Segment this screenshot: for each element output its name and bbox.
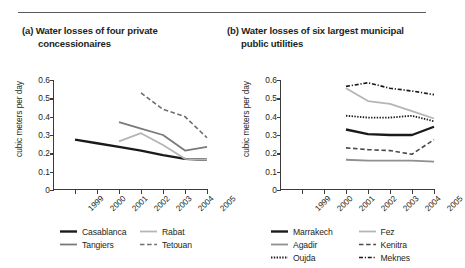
legend-swatch-icon — [359, 240, 376, 249]
x-tick-label: 2002 — [379, 194, 398, 213]
x-tick-label: 2001 — [357, 194, 376, 213]
legend-item-rabat[interactable]: Rabat — [140, 227, 220, 237]
legend-label: Agadir — [293, 240, 317, 250]
x-tick-label: 2004 — [423, 194, 442, 213]
legend-swatch-icon — [271, 253, 288, 262]
legend-swatch-icon — [271, 240, 288, 249]
legend-label: Tangiers — [82, 240, 114, 250]
panel-a-title-line1: (a) Water losses of four private — [22, 25, 158, 36]
legend-row: AgadirKenitra — [271, 238, 446, 251]
y-tick-mark — [277, 117, 281, 118]
panel-a-y-tick-labels: 0.60.50.40.30.20.10 — [18, 80, 50, 192]
legend-item-marrakech[interactable]: Marrakech — [271, 227, 359, 237]
x-tick-label: 2003 — [174, 194, 193, 213]
legend-swatch-icon — [60, 240, 77, 249]
y-tick-mark — [277, 98, 281, 99]
y-tick-label: 0.5 — [38, 93, 50, 103]
legend-item-kenitra[interactable]: Kenitra — [359, 240, 447, 250]
panel-b-title-line2: public utilities — [227, 37, 441, 50]
panel-b-plot: cubic meters per day 0.60.50.40.30.20.10… — [221, 58, 442, 208]
series-line-agadir — [346, 160, 434, 162]
legend-label: Fez — [381, 227, 395, 237]
legend-label: Tetouan — [162, 240, 192, 250]
x-tick-label: 2004 — [196, 194, 215, 213]
x-tick-label: 2000 — [108, 194, 127, 213]
legend-swatch-icon — [60, 227, 77, 236]
y-tick-label: 0.1 — [265, 167, 277, 177]
header-divider — [18, 12, 426, 13]
panel-a-plot: cubic meters per day 0.60.50.40.30.20.10… — [0, 58, 221, 208]
y-tick-label: 0.1 — [38, 167, 50, 177]
legend-row: MarrakechFez — [271, 225, 446, 238]
y-tick-mark — [50, 80, 54, 81]
panel-a-axes — [53, 80, 208, 190]
legend-row: CasablancaRabat — [60, 225, 220, 238]
panel-b-legend: MarrakechFezAgadirKenitraOujdaMeknes — [271, 225, 446, 264]
series-line-kenitra — [346, 140, 434, 155]
legend-swatch-icon — [359, 227, 376, 236]
y-tick-label: 0.3 — [38, 130, 50, 140]
panel-b-series-svg — [280, 80, 435, 190]
y-tick-mark — [277, 172, 281, 173]
y-tick-mark — [50, 172, 54, 173]
chart-panel-b: (b) Water losses of six largest municipa… — [221, 20, 442, 266]
legend-label: Kenitra — [381, 240, 408, 250]
x-tick-label: 2005 — [445, 194, 464, 213]
series-line-meknes — [346, 83, 434, 95]
legend-item-tangiers[interactable]: Tangiers — [60, 240, 140, 250]
panel-b-y-tick-labels: 0.60.50.40.30.20.10 — [245, 80, 277, 192]
legend-item-casablanca[interactable]: Casablanca — [60, 227, 140, 237]
legend-swatch-icon — [359, 253, 376, 262]
legend-label: Meknes — [381, 253, 411, 263]
y-tick-mark — [50, 98, 54, 99]
y-tick-label: 0.6 — [265, 75, 277, 85]
legend-item-tetouan[interactable]: Tetouan — [140, 240, 220, 250]
legend-item-fez[interactable]: Fez — [359, 227, 447, 237]
y-tick-mark — [50, 117, 54, 118]
y-tick-mark — [50, 153, 54, 154]
x-tick-label: 2002 — [152, 194, 171, 213]
y-tick-mark — [50, 135, 54, 136]
legend-label: Rabat — [162, 227, 184, 237]
legend-label: Marrakech — [293, 227, 333, 237]
y-tick-label: 0.5 — [265, 93, 277, 103]
x-tick-label: 1999 — [86, 194, 105, 213]
legend-row: TangiersTetouan — [60, 238, 220, 251]
legend-row: OujdaMeknes — [271, 251, 446, 264]
series-line-fez — [346, 88, 434, 118]
y-tick-label: 0.3 — [265, 130, 277, 140]
legend-item-agadir[interactable]: Agadir — [271, 240, 359, 250]
legend-label: Casablanca — [82, 227, 126, 237]
y-tick-label: 0.2 — [265, 148, 277, 158]
legend-swatch-icon — [140, 227, 157, 236]
panel-a-legend: CasablancaRabatTangiersTetouan — [60, 225, 220, 251]
y-tick-label: 0.6 — [38, 75, 50, 85]
x-tick-label: 2000 — [335, 194, 354, 213]
y-tick-mark — [277, 153, 281, 154]
legend-swatch-icon — [271, 227, 288, 236]
legend-label: Oujda — [293, 253, 315, 263]
chart-panel-a: (a) Water losses of four private concess… — [0, 20, 221, 266]
x-tick-label: 2003 — [401, 194, 420, 213]
y-tick-mark — [277, 80, 281, 81]
y-tick-label: 0.4 — [265, 112, 277, 122]
panel-b-title-line1: (b) Water losses of six largest municipa… — [227, 25, 404, 36]
legend-item-meknes[interactable]: Meknes — [359, 253, 447, 263]
panel-a-title-line2: concessionaires — [22, 37, 220, 50]
series-line-oujda — [346, 116, 434, 122]
legend-item-oujda[interactable]: Oujda — [271, 253, 359, 263]
y-tick-label: 0.4 — [38, 112, 50, 122]
panel-b-title: (b) Water losses of six largest municipa… — [227, 24, 441, 50]
y-tick-label: 0.2 — [38, 148, 50, 158]
y-tick-mark — [277, 190, 281, 191]
x-tick-label: 1999 — [313, 194, 332, 213]
y-tick-mark — [277, 135, 281, 136]
panel-a-title: (a) Water losses of four private concess… — [22, 24, 220, 50]
y-tick-mark — [50, 190, 54, 191]
panel-a-series-svg — [53, 80, 208, 190]
x-tick-label: 2001 — [130, 194, 149, 213]
legend-swatch-icon — [140, 240, 157, 249]
panel-b-axes — [280, 80, 435, 190]
series-line-marrakech — [346, 127, 434, 135]
